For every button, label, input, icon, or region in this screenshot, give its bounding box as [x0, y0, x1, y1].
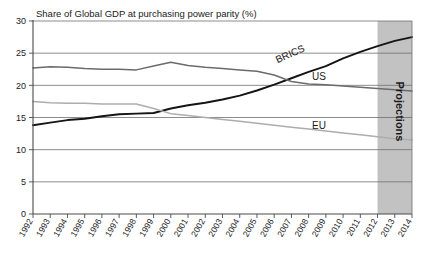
band-label-group: Projections — [394, 82, 406, 142]
series-label-us: US — [312, 71, 326, 82]
y-tick-label-10: 10 — [16, 145, 26, 155]
x-tick-label-2000: 2000 — [154, 217, 172, 239]
y-tick-label-20: 20 — [16, 81, 26, 91]
x-tick-label-1993: 1993 — [34, 217, 52, 239]
series-label-brics: BRICS — [274, 42, 307, 65]
y-tick-label-25: 25 — [16, 48, 26, 58]
y-tick-label-15: 15 — [16, 113, 26, 123]
chart-container: 051015202530 199219931994199519961997199… — [0, 0, 430, 274]
x-tick-label-2012: 2012 — [361, 217, 379, 239]
xtick-labels-group: 1992199319941995199619971998199920002001… — [17, 217, 414, 239]
series-group — [33, 37, 412, 140]
x-tick-label-2008: 2008 — [292, 217, 310, 239]
x-tick-label-2011: 2011 — [344, 217, 362, 238]
x-tick-label-2014: 2014 — [396, 217, 414, 239]
chart-title: Share of Global GDP at purchasing power … — [36, 8, 257, 19]
x-tick-label-2004: 2004 — [223, 217, 241, 239]
x-tick-label-1999: 1999 — [137, 217, 155, 239]
y-tick-label-5: 5 — [21, 177, 26, 187]
x-tick-label-2009: 2009 — [309, 217, 327, 239]
series-label-eu: EU — [312, 120, 326, 131]
y-tick-label-30: 30 — [16, 16, 26, 26]
x-tick-label-2006: 2006 — [258, 217, 276, 239]
x-tick-label-2005: 2005 — [241, 217, 259, 239]
x-tick-label-1998: 1998 — [120, 217, 138, 239]
x-tick-label-1995: 1995 — [68, 217, 86, 239]
gdp-share-line-chart: 051015202530 199219931994199519961997199… — [0, 0, 430, 274]
x-tick-label-1997: 1997 — [103, 217, 121, 239]
x-tick-label-1992: 1992 — [17, 217, 35, 239]
x-tick-label-2007: 2007 — [275, 217, 293, 239]
series-line-eu — [33, 101, 412, 140]
ytick-labels-group: 051015202530 — [16, 16, 26, 219]
x-tick-label-2002: 2002 — [189, 217, 207, 239]
x-tick-label-2001: 2001 — [172, 217, 190, 239]
series-line-brics — [33, 37, 412, 125]
x-tick-label-2013: 2013 — [378, 217, 396, 239]
gridlines-group — [33, 21, 412, 182]
series-line-us — [33, 62, 412, 91]
x-tick-label-1994: 1994 — [51, 217, 69, 239]
x-tick-label-2003: 2003 — [206, 217, 224, 239]
x-tick-label-2010: 2010 — [327, 217, 345, 239]
x-tick-label-1996: 1996 — [86, 217, 104, 239]
projections-label: Projections — [394, 82, 406, 142]
